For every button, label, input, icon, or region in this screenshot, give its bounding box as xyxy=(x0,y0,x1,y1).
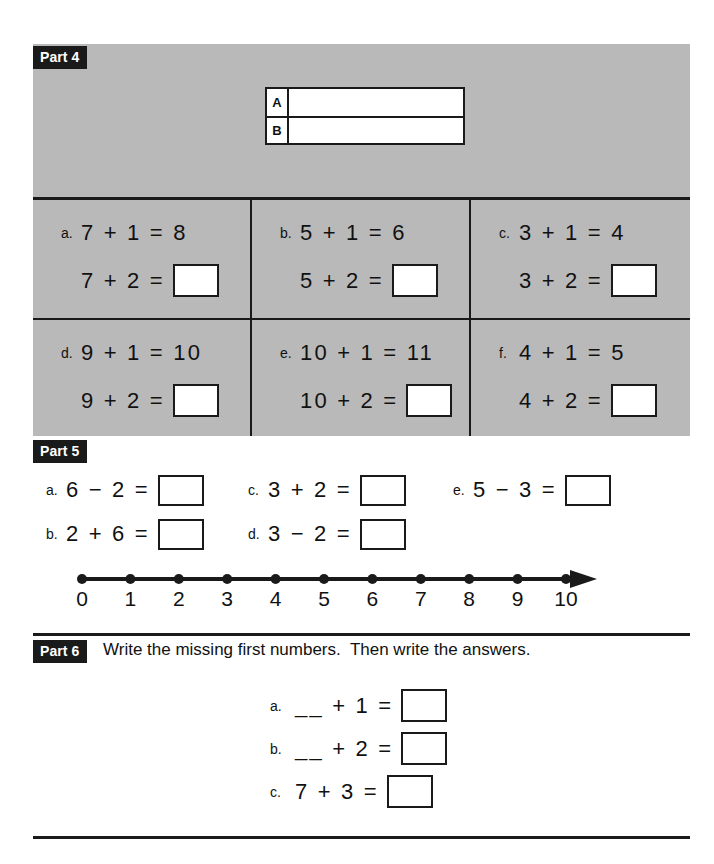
item-tag: e. xyxy=(453,482,466,498)
answer-box[interactable] xyxy=(360,519,406,550)
ab-answer-field-b[interactable] xyxy=(289,118,463,143)
part4-cell-f: f. 4 + 1 = 5 4 + 2 = xyxy=(471,318,690,436)
part6-top-rule xyxy=(33,633,690,636)
part4-cell-c: c. 3 + 1 = 4 3 + 2 = xyxy=(471,200,690,318)
part6-instruction: Write the missing first numbers. Then wr… xyxy=(103,641,530,658)
equation-text: 7 + 3 = xyxy=(295,779,379,805)
number-line-tick-label: 3 xyxy=(221,588,233,609)
part4-cell-e: e. 10 + 1 = 11 10 + 2 = xyxy=(252,318,471,436)
given-equation: b. 5 + 1 = 6 xyxy=(280,222,469,244)
item-tag: c. xyxy=(248,482,261,498)
number-line-tick-dot xyxy=(77,574,87,584)
answer-box[interactable] xyxy=(401,732,447,765)
part4-label: Part 4 xyxy=(33,46,87,69)
number-line-tick-label: 10 xyxy=(554,588,577,609)
number-line-tick-label: 1 xyxy=(125,588,137,609)
part6-item-a: a. __ + 1 = xyxy=(270,684,447,727)
number-line-tick-dot xyxy=(513,574,523,584)
answer-box[interactable] xyxy=(360,475,406,506)
equation-text: 5 + 1 = 6 xyxy=(300,222,407,244)
number-line-graphic xyxy=(70,568,610,590)
part5-label: Part 5 xyxy=(33,440,87,463)
question-equation: 9 + 2 = xyxy=(61,384,250,417)
number-line-tick-dot xyxy=(367,574,377,584)
number-line-tick-dot xyxy=(464,574,474,584)
item-tag: c. xyxy=(270,784,283,800)
item-tag: f. xyxy=(499,346,512,360)
number-line-tick-label: 9 xyxy=(512,588,524,609)
equation-text: 9 + 1 = 10 xyxy=(81,342,202,364)
answer-box[interactable] xyxy=(158,475,204,506)
number-line-tick-label: 2 xyxy=(173,588,185,609)
equation-text: 5 − 3 = xyxy=(473,477,557,503)
answer-box[interactable] xyxy=(158,519,204,550)
question-equation: 3 + 2 = xyxy=(499,264,690,297)
item-tag: c. xyxy=(499,226,512,240)
answer-box[interactable] xyxy=(406,384,452,417)
part6-problems: a. __ + 1 = b. __ + 2 = c. 7 + 3 = xyxy=(270,684,447,813)
part5-item-e: e. 5 − 3 = xyxy=(453,468,611,512)
question-equation: 4 + 2 = xyxy=(499,384,690,417)
answer-box[interactable] xyxy=(611,384,657,417)
part4-cell-b: b. 5 + 1 = 6 5 + 2 = xyxy=(252,200,471,318)
given-equation: d. 9 + 1 = 10 xyxy=(61,342,250,364)
number-line-tick-dot xyxy=(125,574,135,584)
question-equation: 5 + 2 = xyxy=(280,264,469,297)
part5-column-left: a. 6 − 2 = b. 2 + 6 = xyxy=(46,468,204,556)
number-line-labels: 012345678910 xyxy=(70,588,610,616)
number-line-tick-label: 0 xyxy=(76,588,88,609)
table-row: B xyxy=(267,116,463,143)
item-tag: d. xyxy=(61,346,74,360)
ab-answer-field-a[interactable] xyxy=(289,89,463,116)
equation-text: 10 + 1 = 11 xyxy=(300,342,434,364)
worksheet-page: Part 4 A B a. 7 + 1 = 8 7 + 2 = b. 5 + 1… xyxy=(0,0,714,864)
equation-text: 4 + 2 = xyxy=(519,390,603,412)
equation-text: 5 + 2 = xyxy=(300,270,384,292)
answer-box[interactable] xyxy=(173,384,219,417)
given-equation: c. 3 + 1 = 4 xyxy=(499,222,690,244)
given-equation: e. 10 + 1 = 11 xyxy=(280,342,469,364)
equation-text: 3 + 2 = xyxy=(268,477,352,503)
question-equation: 7 + 2 = xyxy=(61,264,250,297)
equation-text: 3 + 1 = 4 xyxy=(519,222,626,244)
number-line-tick-label: 8 xyxy=(463,588,475,609)
part6-item-c: c. 7 + 3 = xyxy=(270,770,447,813)
page-bottom-rule xyxy=(33,836,690,839)
equation-text: 9 + 2 = xyxy=(81,390,165,412)
equation-text: __ + 1 = xyxy=(295,693,393,719)
answer-box[interactable] xyxy=(401,689,447,722)
number-line-tick-dot xyxy=(222,574,232,584)
answer-box[interactable] xyxy=(611,264,657,297)
part4-cell-d: d. 9 + 1 = 10 9 + 2 = xyxy=(33,318,252,436)
question-equation: 10 + 2 = xyxy=(280,384,469,417)
ab-row-key-a: A xyxy=(267,89,289,116)
part4-problem-grid: a. 7 + 1 = 8 7 + 2 = b. 5 + 1 = 6 5 + 2 … xyxy=(33,197,690,436)
part4-ab-table: A B xyxy=(265,87,465,145)
part5-item-d: d. 3 − 2 = xyxy=(248,512,406,556)
number-line-tick-dot xyxy=(271,574,281,584)
number-line-tick-dot xyxy=(416,574,426,584)
number-line-tick-dot xyxy=(561,574,571,584)
number-line-tick-label: 4 xyxy=(270,588,282,609)
item-tag: b. xyxy=(280,226,293,240)
number-line-tick-label: 6 xyxy=(367,588,379,609)
number-line-tick-label: 5 xyxy=(318,588,330,609)
ab-row-key-b: B xyxy=(267,118,289,143)
part6-label: Part 6 xyxy=(33,640,87,663)
item-tag: b. xyxy=(270,741,283,757)
equation-text: __ + 2 = xyxy=(295,736,393,762)
equation-text: 2 + 6 = xyxy=(66,521,150,547)
item-tag: a. xyxy=(270,698,283,714)
answer-box[interactable] xyxy=(387,775,433,808)
number-line-tick-dot xyxy=(319,574,329,584)
part5-column-middle: c. 3 + 2 = d. 3 − 2 = xyxy=(248,468,406,556)
equation-text: 6 − 2 = xyxy=(66,477,150,503)
equation-text: 7 + 2 = xyxy=(81,270,165,292)
part5-item-c: c. 3 + 2 = xyxy=(248,468,406,512)
answer-box[interactable] xyxy=(565,475,611,506)
equation-text: 3 + 2 = xyxy=(519,270,603,292)
equation-text: 7 + 1 = 8 xyxy=(81,222,188,244)
answer-box[interactable] xyxy=(173,264,219,297)
answer-box[interactable] xyxy=(392,264,438,297)
number-line-tick-dot xyxy=(174,574,184,584)
